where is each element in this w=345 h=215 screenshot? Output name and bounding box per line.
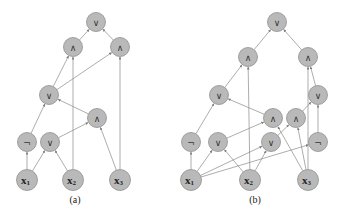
- and-gate-node: ∧: [111, 38, 130, 57]
- edge-a_or_mid-to-a_and_r: [57, 53, 112, 90]
- edge-a_not-to-a_or_mid: [31, 104, 45, 133]
- or-gate-symbol-icon: ∨: [216, 91, 223, 101]
- input-node-x1-node: x1: [17, 170, 38, 191]
- or-gate-node: ∨: [87, 13, 106, 32]
- edge-b_or_r-to-b_and_r: [311, 67, 316, 86]
- caption-b: (b): [249, 194, 261, 206]
- or-gate-node: ∨: [210, 86, 229, 105]
- edge-a_x1-to-a_or_low: [32, 151, 44, 171]
- or-gate-symbol-icon: ∨: [46, 91, 53, 101]
- or-gate-symbol-icon: ∨: [215, 138, 222, 148]
- circuit-diagram-a: ∨∧∧∨∧¬∨x1x2x3 (a): [17, 13, 131, 207]
- edge-b_x2-to-b_or_low1: [224, 150, 243, 172]
- and-gate-node: ∧: [264, 109, 283, 128]
- not-gate-symbol-icon: ¬: [314, 138, 322, 148]
- and-gate-node: ∧: [88, 109, 107, 128]
- edge-a_and_l-to-a_or_top: [79, 29, 89, 40]
- or-gate-node: ∨: [262, 133, 281, 152]
- or-gate-symbol-icon: ∨: [274, 18, 281, 28]
- edge-b_x2-to-b_or_low2: [255, 151, 266, 171]
- or-gate-symbol-icon: ∨: [315, 91, 322, 101]
- or-gate-symbol-icon: ∨: [47, 138, 54, 148]
- or-gate-node: ∨: [41, 133, 60, 152]
- input-node-x1-node: x1: [181, 170, 202, 191]
- edge-b_not_l-to-b_or_l: [196, 104, 214, 134]
- input-node-x2-node: x2: [240, 170, 261, 191]
- input-node-x3-node: x3: [298, 170, 319, 191]
- or-gate-symbol-icon: ∨: [268, 138, 275, 148]
- boolean-circuit-diagrams: ∨∧∧∨∧¬∨x1x2x3 (a) ∨∧∧∨∨∧∧¬∨∨¬x1x2x3 (b): [0, 0, 345, 215]
- edge-a_x2-to-a_or_low: [55, 151, 67, 171]
- not-gate-node: ¬: [309, 133, 328, 152]
- edge-b_x2-to-b_and_l: [248, 67, 250, 170]
- and-gate-node: ∧: [299, 48, 318, 67]
- and-gate-symbol-icon: ∧: [245, 53, 252, 63]
- edge-b_or_low1-to-b_and_m1: [227, 122, 264, 138]
- edge-a_and_r-to-a_or_top: [103, 29, 113, 40]
- edge-b_and_l-to-b_or_top: [254, 30, 271, 50]
- and-gate-symbol-icon: ∧: [70, 43, 77, 53]
- edge-a_x3-to-a_and_low: [100, 127, 116, 170]
- or-gate-node: ∨: [209, 133, 228, 152]
- and-gate-symbol-icon: ∧: [117, 43, 124, 53]
- edge-b_and_r-to-b_or_top: [284, 29, 302, 49]
- and-gate-symbol-icon: ∧: [305, 53, 312, 63]
- circuit-diagram-b: ∨∧∧∨∨∧∧¬∨∨¬x1x2x3 (b): [181, 13, 328, 207]
- edge-b_x1-to-b_or_low1: [197, 150, 212, 171]
- and-gate-node: ∧: [64, 38, 83, 57]
- edge-b_and_m1-to-b_or_l: [228, 99, 264, 114]
- nodes-a: ∨∧∧∨∧¬∨x1x2x3: [17, 13, 131, 191]
- and-gate-symbol-icon: ∧: [293, 114, 300, 124]
- input-node-x2-node: x2: [63, 170, 84, 191]
- edge-b_x3-to-b_and_m2: [298, 128, 306, 170]
- or-gate-node: ∨: [309, 86, 328, 105]
- caption-a: (a): [69, 194, 80, 206]
- edge-b_or_l-to-b_and_l: [225, 65, 242, 87]
- or-gate-symbol-icon: ∨: [93, 18, 100, 28]
- not-gate-node: ¬: [182, 133, 201, 152]
- not-gate-node: ¬: [18, 133, 37, 152]
- not-gate-symbol-icon: ¬: [187, 138, 195, 148]
- and-gate-node: ∧: [287, 109, 306, 128]
- input-node-x3-node: x3: [110, 170, 131, 191]
- edge-b_and_m2-to-b_or_r: [303, 102, 312, 111]
- and-gate-symbol-icon: ∧: [94, 114, 101, 124]
- edge-a_or_mid-to-a_and_l: [53, 56, 68, 87]
- and-gate-node: ∧: [239, 48, 258, 67]
- not-gate-symbol-icon: ¬: [23, 138, 31, 148]
- or-gate-node: ∨: [40, 86, 59, 105]
- or-gate-node: ∨: [268, 13, 287, 32]
- and-gate-symbol-icon: ∧: [270, 114, 277, 124]
